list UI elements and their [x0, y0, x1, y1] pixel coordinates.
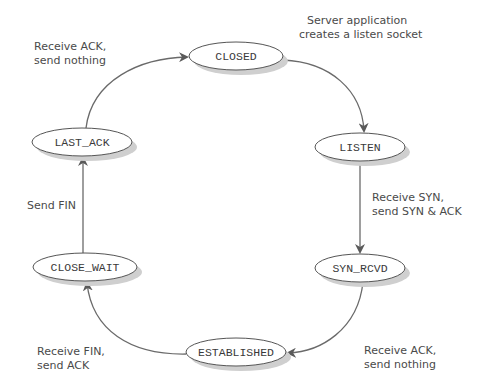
edge-label-line: send nothing: [364, 358, 436, 371]
state-close-wait: CLOSE_WAIT: [33, 253, 142, 286]
edge-syn-rcvd-to-established: [288, 282, 363, 353]
edge-label-line: creates a listen socket: [299, 28, 423, 41]
state-established: ESTABLISHED: [186, 338, 291, 371]
edge-label-line: Receive SYN,: [372, 191, 444, 204]
state-listen-label: LISTEN: [339, 141, 380, 154]
edge-label-closed-to-listen: Server application creates a listen sock…: [299, 14, 423, 41]
transitions: [83, 57, 364, 354]
tcp-state-diagram: CLOSED LISTEN SYN_RCVD ESTABLISHED CLOSE…: [0, 0, 497, 391]
state-syn-rcvd-label: SYN_RCVD: [332, 262, 387, 275]
edge-closed-to-listen: [283, 60, 364, 131]
edge-last-ack-to-closed: [86, 57, 187, 128]
state-last-ack-label: LAST_ACK: [54, 136, 109, 149]
edge-label-line: Server application: [307, 14, 407, 27]
state-established-label: ESTABLISHED: [198, 346, 274, 359]
edge-established-to-close-wait: [87, 283, 186, 354]
edge-label-line: Receive FIN,: [37, 345, 105, 358]
state-last-ack: LAST_ACK: [32, 128, 137, 161]
state-syn-rcvd: SYN_RCVD: [315, 254, 410, 287]
edge-label-line: send SYN & ACK: [372, 205, 462, 218]
edge-label-established-to-close-wait: Receive FIN, send ACK: [37, 345, 105, 372]
edge-label-last-ack-to-closed: Receive ACK, send nothing: [34, 40, 106, 67]
edge-label-close-wait-to-last-ack: Send FIN: [27, 199, 76, 212]
state-closed-label: CLOSED: [215, 50, 257, 63]
edge-label-line: Receive ACK,: [34, 40, 106, 53]
edge-label-line: send ACK: [37, 359, 90, 372]
state-close-wait-label: CLOSE_WAIT: [50, 261, 119, 274]
state-closed: CLOSED: [189, 42, 288, 75]
state-listen: LISTEN: [315, 133, 410, 166]
edge-label-line: send nothing: [34, 54, 106, 67]
edge-label-listen-to-syn-rcvd: Receive SYN, send SYN & ACK: [372, 191, 462, 218]
edge-label-line: Send FIN: [27, 199, 76, 212]
edge-label-line: Receive ACK,: [364, 344, 436, 357]
edge-label-syn-rcvd-to-established: Receive ACK, send nothing: [364, 344, 436, 371]
